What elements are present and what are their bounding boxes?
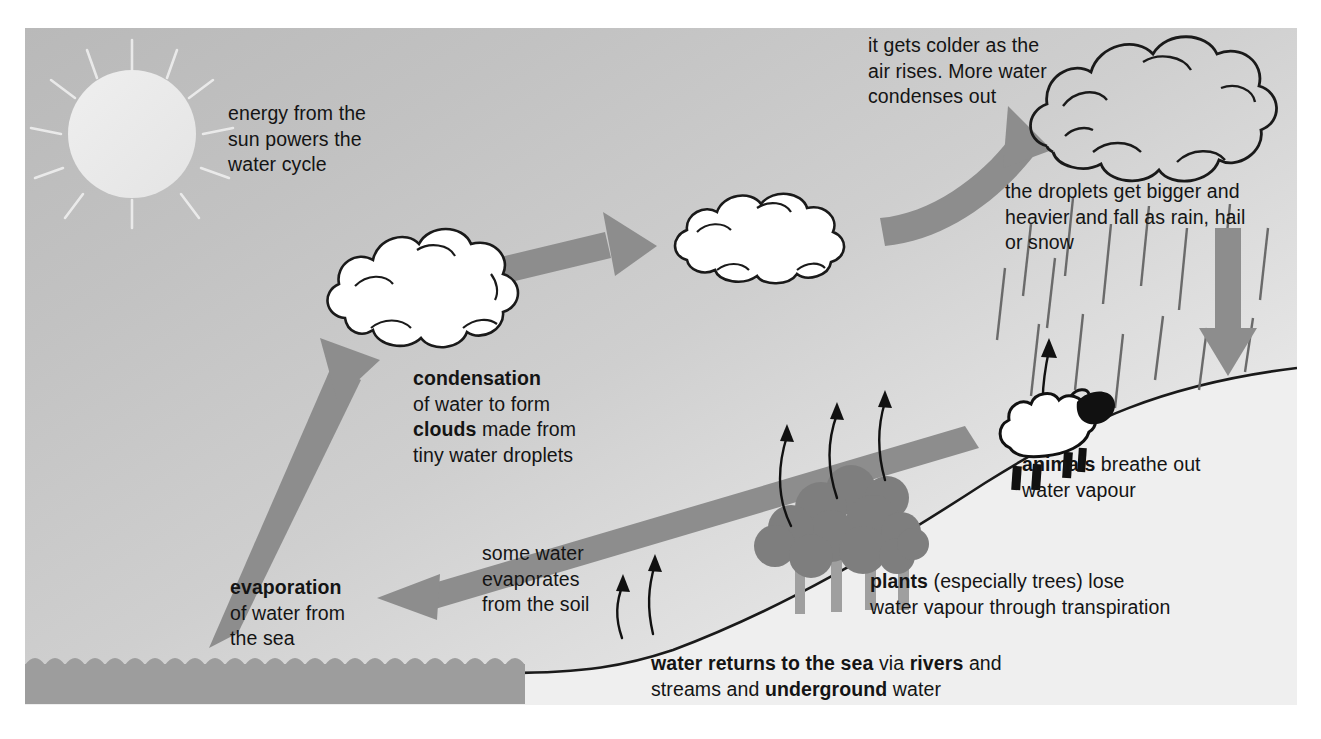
transpiration-arrowheads xyxy=(780,390,892,442)
energy-from-sun-label: energy from the sun powers the water cyc… xyxy=(228,101,366,178)
animals-label: animals breathe out water vapour xyxy=(1022,452,1201,503)
condensation-label: condensation of water to form clouds mad… xyxy=(413,366,576,468)
condensation-cloud xyxy=(328,229,518,347)
evaporation-label: evaporation of water from the sea xyxy=(230,575,345,652)
sun-icon xyxy=(68,70,196,198)
water-returns-label: water returns to the sea via rivers and … xyxy=(651,651,1002,702)
rising-cloud xyxy=(675,194,844,283)
soil-evaporation-label: some water evaporates from the soil xyxy=(482,541,590,618)
rain-cloud xyxy=(1031,37,1277,181)
water-cycle-panel: energy from the sun powers the water cyc… xyxy=(25,28,1297,705)
plants-transpiration-label: plants (especially trees) lose water vap… xyxy=(870,569,1170,620)
droplets-fall-label: the droplets get bigger and heavier and … xyxy=(1005,179,1245,256)
colder-as-air-rises-label: it gets colder as the air rises. More wa… xyxy=(868,33,1047,110)
soil-evaporation-arrowheads xyxy=(616,554,662,592)
diagram-canvas: energy from the sun powers the water cyc… xyxy=(0,0,1321,739)
sea-with-waves xyxy=(25,658,525,704)
